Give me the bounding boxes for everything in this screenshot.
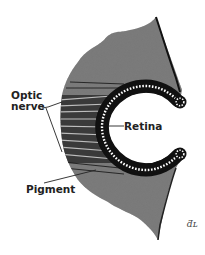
label-pigment: Pigment	[26, 184, 75, 195]
label-optic-nerve-line2: nerve	[11, 101, 45, 112]
label-optic-nerve: Optic nerve	[11, 90, 45, 112]
artist-signature: ƌʟ	[187, 219, 198, 229]
label-retina: Retina	[124, 121, 162, 132]
eye-cross-section-diagram	[0, 0, 205, 255]
